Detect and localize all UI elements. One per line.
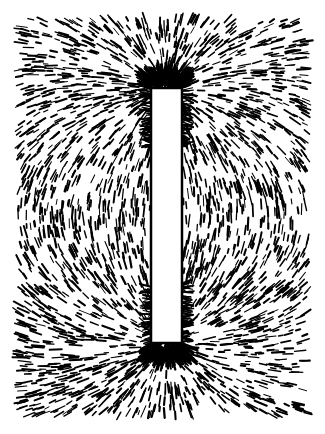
iron-filings-image xyxy=(0,0,325,434)
bar-magnet xyxy=(151,88,182,343)
magnetic-field-figure xyxy=(0,0,325,434)
